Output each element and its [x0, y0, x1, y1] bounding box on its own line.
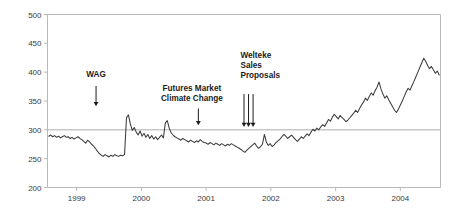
x-tick-label: 2000 [132, 194, 150, 203]
chart-annotations: WAGFutures MarketClimate ChangeWeltekeSa… [86, 51, 280, 127]
annotation-arrow-head [242, 123, 247, 127]
annotation-label: Climate Change [161, 94, 223, 103]
annotation-label: WAG [86, 70, 106, 79]
annotation-arrow-head [94, 102, 99, 106]
welteke-sales-proposals-annotation: WeltekeSalesProposals [240, 51, 280, 127]
x-tick-label: 2003 [327, 194, 345, 203]
annotation-arrow-head [246, 123, 251, 127]
x-tick-label: 1999 [68, 194, 86, 203]
x-axis: 199920002001200220032004 [68, 188, 410, 203]
annotation-label: Futures Market [163, 84, 222, 93]
annotation-label: Sales [240, 61, 262, 70]
y-tick-label: 250 [28, 155, 42, 164]
y-tick-label: 200 [28, 184, 42, 193]
y-tick-label: 350 [28, 97, 42, 106]
y-tick-label: 500 [28, 11, 42, 20]
futures-market-climate-change-annotation: Futures MarketClimate Change [161, 84, 223, 126]
annotation-arrow-head [196, 121, 201, 125]
annotation-arrow-head [251, 123, 256, 127]
y-axis: 200250300350400450500 [28, 11, 47, 193]
annotation-label: Proposals [240, 71, 280, 80]
y-tick-label: 400 [28, 68, 42, 77]
line-chart: 200250300350400450500 199920002001200220… [0, 0, 457, 218]
annotation-label: Welteke [240, 51, 271, 60]
wag-annotation: WAG [86, 70, 106, 106]
chart-container: 200250300350400450500 199920002001200220… [0, 0, 457, 218]
y-tick-label: 300 [28, 126, 42, 135]
x-tick-label: 2004 [391, 194, 409, 203]
x-tick-label: 2001 [197, 194, 215, 203]
y-tick-label: 450 [28, 39, 42, 48]
x-tick-label: 2002 [262, 194, 280, 203]
